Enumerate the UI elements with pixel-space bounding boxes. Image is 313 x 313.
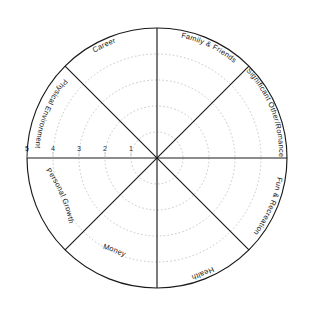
wheel-of-life-diagram: 5 4 3 2 1 Family & Friends Significant O…: [0, 0, 313, 313]
scale-label-1: 1: [129, 145, 133, 153]
scale-label-5: 5: [25, 145, 29, 153]
scale-label-2: 2: [103, 145, 107, 153]
scale-label-4: 4: [51, 145, 55, 153]
sector-spokes: [27, 28, 287, 288]
scale-label-3: 3: [77, 145, 81, 153]
wheel-svg-canvas: 5 4 3 2 1 Family & Friends Significant O…: [0, 0, 313, 313]
